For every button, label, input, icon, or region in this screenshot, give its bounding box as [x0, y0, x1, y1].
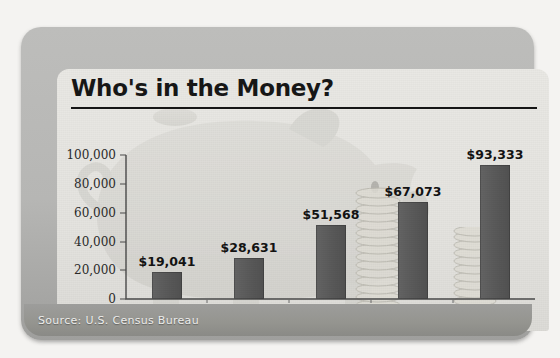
bar-value-label: $67,073 [385, 184, 442, 199]
bar-value-label: $93,333 [467, 147, 524, 162]
bar-masters-degree[interactable] [398, 202, 428, 299]
bar-phd[interactable] [480, 165, 510, 299]
ytick-label: 60,000 [74, 206, 116, 220]
ytick-label: 100,000 [66, 148, 116, 162]
scanned-page: Who's in the Money? [0, 0, 560, 358]
chart-axes [57, 69, 549, 331]
bar-bachelors-degree[interactable] [316, 225, 346, 299]
source-text: Source: U.S. Census Bureau [38, 314, 199, 327]
bar-high-school-grad[interactable] [234, 258, 264, 299]
bar-value-label: $19,041 [139, 254, 196, 269]
ytick-label: 20,000 [74, 263, 116, 277]
chart-card-frame: Who's in the Money? [21, 27, 534, 340]
bar-chart: 100,000 80,000 60,000 40,000 20,000 0 $1… [57, 69, 549, 331]
bar-value-label: $28,631 [221, 240, 278, 255]
ytick-label: 80,000 [74, 177, 116, 191]
chart-panel: Who's in the Money? [57, 69, 549, 331]
bar-no-hs-diploma[interactable] [152, 272, 182, 299]
ytick-label: 40,000 [74, 235, 116, 249]
bar-value-label: $51,568 [303, 207, 360, 222]
source-band: Source: U.S. Census Bureau [24, 304, 532, 336]
